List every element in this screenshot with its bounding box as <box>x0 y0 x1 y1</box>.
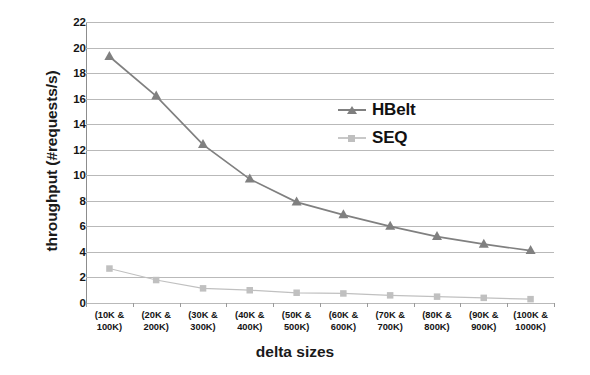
gridline <box>86 73 554 74</box>
y-tick-label: 6 <box>56 220 86 232</box>
y-tick-label: 14 <box>56 118 86 130</box>
gridline <box>86 150 554 151</box>
y-tick-label: 20 <box>56 42 86 54</box>
x-tick-mark <box>273 303 274 307</box>
x-tick-mark <box>460 303 461 307</box>
y-tick-label: 18 <box>56 67 86 79</box>
y-tick-label: 0 <box>56 297 86 309</box>
x-tick-label-line: 1000K) <box>493 322 569 334</box>
x-tick-mark <box>414 303 415 307</box>
y-tick-label: 2 <box>56 271 86 283</box>
y-tick-label: 8 <box>56 195 86 207</box>
legend-item-seq[interactable]: SEQ <box>338 124 468 152</box>
gridline <box>86 48 554 49</box>
y-tick-label: 4 <box>56 246 86 258</box>
gridline <box>86 277 554 278</box>
chart-legend: HBelt SEQ <box>338 96 468 152</box>
x-tick-mark <box>367 303 368 307</box>
gridline <box>86 175 554 176</box>
legend-marker-square-icon <box>338 131 366 145</box>
legend-label-seq: SEQ <box>372 128 407 148</box>
x-tick-mark <box>86 303 87 307</box>
gridline <box>86 22 554 23</box>
x-tick-mark <box>554 303 555 307</box>
y-tick-label: 16 <box>56 93 86 105</box>
y-tick-label: 12 <box>56 144 86 156</box>
x-tick-mark <box>320 303 321 307</box>
y-axis-ticks: 0246810121416182022 <box>48 22 86 304</box>
x-tick-mark <box>133 303 134 307</box>
x-tick-mark <box>180 303 181 307</box>
legend-item-hbelt[interactable]: HBelt <box>338 96 468 124</box>
gridline <box>86 99 554 100</box>
plot-area <box>86 22 554 303</box>
y-tick-label: 22 <box>56 16 86 28</box>
chart-figure: throughput (#requests/s) 024681012141618… <box>0 0 590 375</box>
gridline <box>86 226 554 227</box>
gridline <box>86 201 554 202</box>
x-tick-mark <box>226 303 227 307</box>
legend-label-hbelt: HBelt <box>372 100 415 120</box>
gridline <box>86 252 554 253</box>
x-axis-title: delta sizes <box>0 343 590 361</box>
legend-marker-triangle-icon <box>338 103 366 117</box>
x-tick-label-line: (100K & <box>493 310 569 322</box>
x-tick-mark <box>507 303 508 307</box>
x-tick-label: (100K &1000K) <box>493 310 569 333</box>
gridline <box>86 124 554 125</box>
y-tick-label: 10 <box>56 169 86 181</box>
